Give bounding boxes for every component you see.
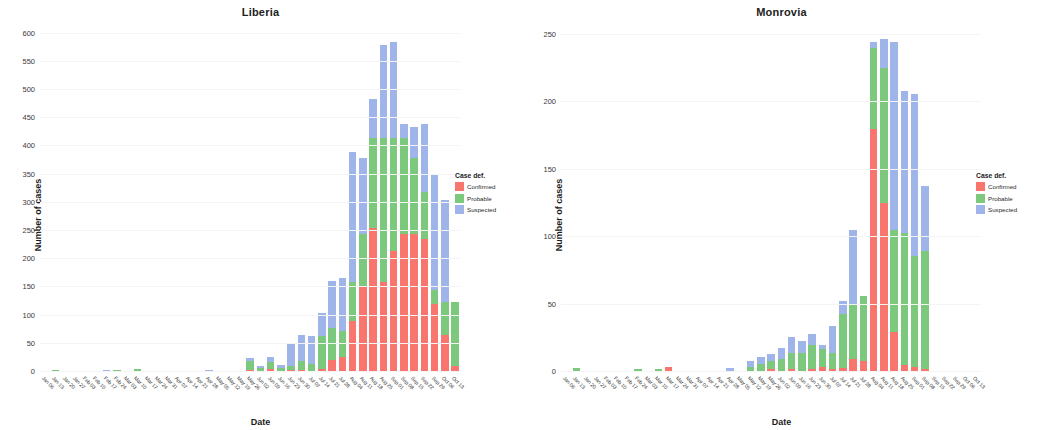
bar-slot[interactable] [643, 28, 653, 372]
bar-segment-probable[interactable] [369, 138, 376, 228]
bar-slot[interactable] [807, 28, 817, 372]
bar-slot[interactable] [40, 28, 50, 372]
bar-slot[interactable] [419, 28, 429, 372]
bar-segment-probable[interactable] [849, 305, 856, 359]
bar-slot[interactable] [684, 28, 694, 372]
bar-segment-confirmed[interactable] [880, 203, 887, 372]
bar-slot[interactable] [204, 28, 214, 372]
bar-slot[interactable] [848, 28, 858, 372]
stacked-bar[interactable] [390, 42, 397, 372]
bar-segment-suspected[interactable] [778, 348, 785, 359]
bar-segment-confirmed[interactable] [339, 357, 346, 372]
bar-segment-suspected[interactable] [421, 124, 428, 192]
bar-segment-suspected[interactable] [318, 313, 325, 337]
stacked-bar[interactable] [380, 45, 387, 372]
stacked-bar[interactable] [921, 186, 928, 372]
bar-segment-probable[interactable] [308, 364, 315, 371]
stacked-bar[interactable] [308, 336, 315, 372]
bar-segment-confirmed[interactable] [890, 332, 897, 372]
stacked-bar[interactable] [911, 94, 918, 372]
bar-slot[interactable] [592, 28, 602, 372]
bar-segment-probable[interactable] [267, 362, 274, 369]
bar-segment-probable[interactable] [921, 251, 928, 370]
bar-slot[interactable] [889, 28, 899, 372]
stacked-bar[interactable] [421, 124, 428, 372]
bar-slot[interactable] [664, 28, 674, 372]
stacked-bar[interactable] [798, 341, 805, 372]
bar-slot[interactable] [368, 28, 378, 372]
bar-slot[interactable] [746, 28, 756, 372]
bar-slot[interactable] [337, 28, 347, 372]
stacked-bar[interactable] [778, 348, 785, 372]
bar-segment-suspected[interactable] [911, 94, 918, 256]
bar-segment-probable[interactable] [431, 290, 438, 304]
bar-slot[interactable] [389, 28, 399, 372]
bar-segment-probable[interactable] [757, 364, 764, 371]
stacked-bar[interactable] [400, 124, 407, 372]
bar-segment-suspected[interactable] [829, 326, 836, 353]
bar-slot[interactable] [961, 28, 971, 372]
bar-slot[interactable] [633, 28, 643, 372]
bar-slot[interactable] [163, 28, 173, 372]
stacked-bar[interactable] [267, 357, 274, 372]
bar-segment-suspected[interactable] [870, 42, 877, 49]
bar-slot[interactable] [225, 28, 235, 372]
bar-segment-confirmed[interactable] [870, 129, 877, 372]
bar-slot[interactable] [910, 28, 920, 372]
bar-segment-confirmed[interactable] [390, 251, 397, 372]
bar-segment-probable[interactable] [890, 230, 897, 331]
bar-segment-suspected[interactable] [798, 341, 805, 353]
bar-segment-suspected[interactable] [349, 152, 356, 282]
bar-slot[interactable] [705, 28, 715, 372]
bar-segment-probable[interactable] [798, 353, 805, 371]
bar-segment-probable[interactable] [451, 302, 458, 367]
bar-slot[interactable] [327, 28, 337, 372]
legend-item-suspected[interactable]: Suspected [976, 205, 1017, 214]
bar-slot[interactable] [879, 28, 889, 372]
bar-slot[interactable] [725, 28, 735, 372]
bar-segment-confirmed[interactable] [849, 359, 856, 372]
stacked-bar[interactable] [849, 230, 856, 372]
bar-slot[interactable] [440, 28, 450, 372]
bar-slot[interactable] [50, 28, 60, 372]
bar-segment-probable[interactable] [911, 256, 918, 367]
bar-slot[interactable] [653, 28, 663, 372]
stacked-bar[interactable] [880, 39, 887, 372]
bar-segment-suspected[interactable] [287, 343, 294, 366]
bar-slot[interactable] [776, 28, 786, 372]
bar-slot[interactable] [317, 28, 327, 372]
stacked-bar[interactable] [819, 345, 826, 372]
bar-slot[interactable] [430, 28, 440, 372]
bar-slot[interactable] [102, 28, 112, 372]
bar-segment-probable[interactable] [829, 353, 836, 369]
stacked-bar[interactable] [890, 42, 897, 373]
bar-segment-probable[interactable] [767, 361, 774, 369]
bar-segment-suspected[interactable] [890, 42, 897, 231]
bar-slot[interactable] [582, 28, 592, 372]
bar-segment-confirmed[interactable] [359, 287, 366, 372]
stacked-bar[interactable] [757, 357, 764, 372]
bar-slot[interactable] [817, 28, 827, 372]
stacked-bar[interactable] [808, 334, 815, 372]
bar-slot[interactable] [930, 28, 940, 372]
bar-segment-suspected[interactable] [400, 124, 407, 138]
bar-segment-probable[interactable] [880, 68, 887, 203]
stacked-bar[interactable] [410, 127, 417, 372]
bar-segment-probable[interactable] [901, 233, 908, 365]
bar-segment-suspected[interactable] [298, 335, 305, 360]
bar-segment-suspected[interactable] [901, 91, 908, 233]
bar-segment-suspected[interactable] [431, 175, 438, 291]
bar-segment-confirmed[interactable] [349, 321, 356, 372]
bar-segment-probable[interactable] [390, 138, 397, 251]
stacked-bar[interactable] [287, 343, 294, 372]
stacked-bar[interactable] [839, 301, 846, 372]
bar-segment-confirmed[interactable] [441, 335, 448, 372]
bar-segment-probable[interactable] [441, 302, 448, 336]
bar-segment-probable[interactable] [298, 361, 305, 370]
bar-slot[interactable] [623, 28, 633, 372]
bar-segment-suspected[interactable] [921, 186, 928, 251]
bar-slot[interactable] [715, 28, 725, 372]
bar-slot[interactable] [112, 28, 122, 372]
bar-segment-probable[interactable] [318, 336, 325, 369]
stacked-bar[interactable] [767, 354, 774, 372]
